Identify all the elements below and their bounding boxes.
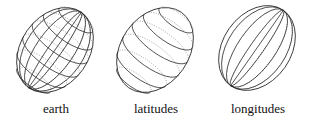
latitudes-label: latitudes xyxy=(116,101,196,117)
longitudes-globe xyxy=(203,0,311,105)
earth-globe xyxy=(1,0,109,107)
longitudes-label: longitudes xyxy=(218,101,298,117)
earth-label: earth xyxy=(16,101,96,117)
latitudes-globe xyxy=(101,0,209,107)
